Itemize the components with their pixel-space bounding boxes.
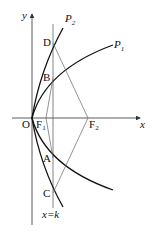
point-F1-label: F1	[36, 118, 46, 132]
point-C-label: C	[43, 187, 50, 199]
segment-B-F1	[46, 78, 53, 118]
point-F2-label: F2	[89, 118, 99, 132]
parabola-p1	[32, 45, 113, 190]
origin-label: O	[22, 118, 30, 130]
y-axis-label: y	[21, 9, 27, 21]
line-label: x=k	[41, 208, 60, 220]
diagram-canvas: y x O P2 P1 D B A C F1 F2 x=k	[0, 0, 152, 239]
point-A-label: A	[43, 152, 51, 164]
segment-F2-C	[53, 118, 88, 193]
point-B-label: B	[43, 71, 50, 83]
curve-p1-label: P1	[113, 38, 124, 53]
point-D-label: D	[43, 36, 51, 48]
segment-D-F2	[53, 43, 88, 118]
x-axis-label: x	[139, 118, 145, 130]
curve-p2-label: P2	[64, 12, 76, 27]
parabola-diagram: y x O P2 P1 D B A C F1 F2 x=k	[0, 0, 152, 239]
